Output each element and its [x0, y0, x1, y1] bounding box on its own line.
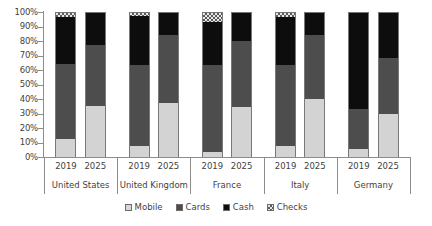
legend-label: Mobile — [135, 203, 163, 212]
legend-label: Cards — [186, 203, 210, 212]
bar-column[interactable] — [158, 12, 179, 157]
legend-label: Checks — [277, 203, 308, 212]
group-separator — [410, 158, 411, 194]
group-separator — [190, 158, 191, 194]
legend-item[interactable]: Checks — [267, 203, 308, 212]
y-axis-tick-label: 100% — [4, 8, 38, 17]
bar-column[interactable] — [275, 12, 296, 157]
bar-column[interactable] — [129, 12, 150, 157]
plot-area — [44, 12, 410, 157]
segment-mobile[interactable] — [349, 149, 368, 157]
segment-cards[interactable] — [130, 65, 149, 146]
group-separator — [337, 158, 338, 194]
stacked-bar[interactable] — [348, 12, 369, 157]
x-axis-group-label: United Kingdom — [117, 180, 190, 190]
bar-column[interactable] — [348, 12, 369, 157]
segment-cash[interactable] — [276, 17, 295, 65]
legend-item[interactable]: Mobile — [125, 203, 163, 212]
segment-cards[interactable] — [232, 41, 251, 108]
x-axis-group-label: Germany — [337, 180, 410, 190]
y-axis-tick-label: 50% — [4, 80, 38, 89]
cash-swatch — [223, 204, 230, 211]
segment-cash[interactable] — [379, 13, 398, 58]
stacked-bar[interactable] — [378, 12, 399, 157]
bar-column[interactable] — [231, 12, 252, 157]
x-axis-year-label: 2025 — [368, 161, 408, 171]
segment-cards[interactable] — [276, 65, 295, 146]
x-axis-year-label: 2025 — [148, 161, 188, 171]
segment-cash[interactable] — [56, 17, 75, 63]
segment-cash[interactable] — [130, 16, 149, 65]
y-axis-tick-label: 30% — [4, 109, 38, 118]
y-axis-tick-label: 70% — [4, 51, 38, 60]
x-axis-line — [43, 157, 411, 158]
segment-mobile[interactable] — [86, 106, 105, 157]
segment-cash[interactable] — [86, 13, 105, 45]
y-axis-tick-label: 0% — [4, 153, 38, 162]
segment-cards[interactable] — [349, 109, 368, 150]
group-separator — [264, 158, 265, 194]
stacked-bar[interactable] — [55, 12, 76, 157]
y-axis-tick-label: 20% — [4, 124, 38, 133]
segment-cash[interactable] — [232, 13, 251, 41]
x-axis-group-label: Italy — [264, 180, 337, 190]
y-axis-tick-label: 10% — [4, 138, 38, 147]
segment-cards[interactable] — [379, 58, 398, 115]
x-axis-group-label: France — [190, 180, 263, 190]
stacked-bar[interactable] — [85, 12, 106, 157]
group-separator — [117, 158, 118, 194]
y-axis-tick-label: 60% — [4, 66, 38, 75]
bar-column[interactable] — [304, 12, 325, 157]
legend-label: Cash — [233, 203, 254, 212]
stacked-bar[interactable] — [129, 12, 150, 157]
segment-checks[interactable] — [203, 13, 222, 22]
x-axis-group-label: United States — [44, 180, 117, 190]
stacked-bar-chart: 0%10%20%30%40%50%60%70%80%90%100% 201920… — [0, 0, 432, 226]
chart-legend: MobileCardsCashChecks — [0, 203, 432, 212]
segment-mobile[interactable] — [203, 152, 222, 157]
mobile-swatch — [125, 204, 132, 211]
checks-swatch — [267, 204, 274, 211]
segment-cards[interactable] — [203, 65, 222, 152]
segment-mobile[interactable] — [56, 139, 75, 157]
segment-mobile[interactable] — [232, 107, 251, 157]
bar-column[interactable] — [85, 12, 106, 157]
y-axis-labels: 0%10%20%30%40%50%60%70%80%90%100% — [0, 0, 38, 226]
stacked-bar[interactable] — [304, 12, 325, 157]
bar-column[interactable] — [55, 12, 76, 157]
y-axis-tick-label: 80% — [4, 37, 38, 46]
segment-mobile[interactable] — [130, 146, 149, 157]
bar-column[interactable] — [202, 12, 223, 157]
segment-mobile[interactable] — [276, 146, 295, 157]
segment-cards[interactable] — [56, 64, 75, 139]
segment-cards[interactable] — [86, 45, 105, 106]
group-separator — [44, 158, 45, 194]
stacked-bar[interactable] — [158, 12, 179, 157]
x-axis-year-label: 2025 — [295, 161, 335, 171]
legend-item[interactable]: Cash — [223, 203, 254, 212]
segment-mobile[interactable] — [159, 103, 178, 157]
y-axis-tick-label: 90% — [4, 22, 38, 31]
segment-cards[interactable] — [159, 35, 178, 103]
stacked-bar[interactable] — [202, 12, 223, 157]
stacked-bar[interactable] — [275, 12, 296, 157]
y-axis-tick-label: 40% — [4, 95, 38, 104]
segment-cash[interactable] — [349, 13, 368, 109]
stacked-bar[interactable] — [231, 12, 252, 157]
segment-cash[interactable] — [305, 13, 324, 35]
x-axis-year-label: 2025 — [222, 161, 262, 171]
segment-mobile[interactable] — [305, 99, 324, 157]
segment-cash[interactable] — [159, 13, 178, 35]
bar-column[interactable] — [378, 12, 399, 157]
legend-item[interactable]: Cards — [176, 203, 210, 212]
x-axis-year-label: 2025 — [75, 161, 115, 171]
segment-cards[interactable] — [305, 35, 324, 99]
segment-cash[interactable] — [203, 22, 222, 66]
cards-swatch — [176, 204, 183, 211]
segment-mobile[interactable] — [379, 114, 398, 157]
